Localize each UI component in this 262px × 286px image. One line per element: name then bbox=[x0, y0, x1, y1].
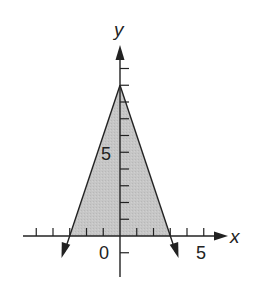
x-axis-label: x bbox=[229, 226, 241, 247]
y-tick-label-5: 5 bbox=[101, 144, 111, 164]
y-axis-label: y bbox=[112, 19, 125, 40]
graph: y x 0 5 5 bbox=[0, 0, 262, 286]
right-line-arrow-icon bbox=[170, 242, 179, 258]
x-axis-arrow-icon bbox=[214, 232, 228, 241]
left-line-arrow-icon bbox=[62, 242, 71, 258]
y-axis-arrow-icon bbox=[116, 45, 125, 60]
origin-label: 0 bbox=[99, 243, 109, 263]
x-tick-label-5: 5 bbox=[196, 243, 206, 263]
